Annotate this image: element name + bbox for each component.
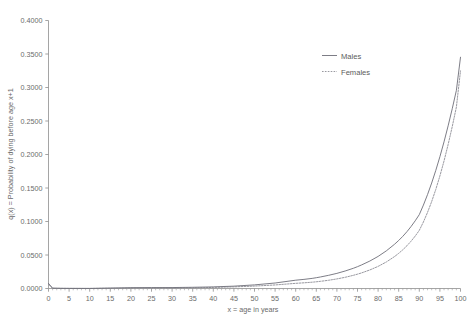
y-tick-label: 0.2000 [21,150,43,159]
legend-label-females: Females [341,68,370,77]
x-tick-label: 100 [455,294,467,303]
x-tick-label: 70 [333,294,341,303]
x-tick-label: 95 [436,294,444,303]
x-tick-label: 80 [374,294,382,303]
x-tick-label: 60 [292,294,300,303]
line-chart: 0510152025303540455055606570758085909510… [0,0,476,326]
x-tick-label: 5 [67,294,71,303]
x-axis-ticks [49,289,461,292]
y-tick-label: 0.3500 [21,50,43,59]
x-tick-label: 10 [86,294,94,303]
x-tick-label: 30 [168,294,176,303]
series-line-females [49,71,461,289]
x-tick-label: 25 [148,294,156,303]
x-tick-label: 20 [127,294,135,303]
y-tick-label: 0.1500 [21,184,43,193]
y-axis-ticks [45,21,48,289]
y-tick-label: 0.3000 [21,83,43,92]
y-tick-label: 0.2500 [21,117,43,126]
x-tick-label: 85 [395,294,403,303]
x-tick-label: 45 [230,294,238,303]
chart-legend: Males Females [322,52,370,77]
y-tick-label: 0.4000 [21,16,43,25]
x-tick-label: 55 [271,294,279,303]
y-tick-label: 0.0500 [21,251,43,260]
x-tick-label: 35 [189,294,197,303]
legend-label-males: Males [341,52,361,61]
x-tick-label: 65 [312,294,320,303]
y-axis-tick-labels: 0.00000.05000.10000.15000.20000.25000.30… [21,16,43,293]
chart-container: 0510152025303540455055606570758085909510… [0,0,476,326]
x-tick-label: 0 [47,294,51,303]
x-tick-label: 90 [415,294,423,303]
x-tick-label: 15 [106,294,114,303]
x-axis-tick-labels: 0510152025303540455055606570758085909510… [47,294,467,303]
x-tick-label: 50 [251,294,259,303]
y-tick-label: 0.1000 [21,217,43,226]
x-axis-title: x = age in years [228,305,279,314]
y-tick-label: 0.0000 [21,284,43,293]
x-tick-label: 75 [354,294,362,303]
axes [49,21,461,289]
x-tick-label: 40 [209,294,217,303]
y-axis-title: q(x) = Probability of dying before age x… [6,88,15,219]
